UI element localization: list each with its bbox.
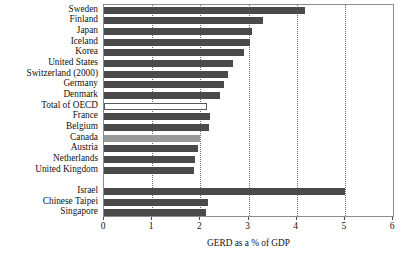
x-axis: 0123456 [103,217,394,237]
x-axis-tick-label: 0 [93,220,113,232]
category-label: Iceland [71,36,98,47]
bar [104,188,345,195]
x-axis-tick-label: 3 [238,220,258,232]
category-label: Canada [70,132,98,143]
category-label: Total of OECD [41,100,98,111]
bar [104,135,200,142]
category-label: Belgium [66,121,98,132]
x-axis-title: GERD as a % of GDP [103,237,394,249]
x-axis-tick-label: 1 [141,220,161,232]
bar [104,60,233,67]
bar [104,92,220,99]
bar [104,103,207,110]
category-label: Korea [75,46,98,57]
bar [104,17,263,24]
category-label: Chinese Taipei [43,196,98,207]
x-axis-tick-label: 6 [382,220,402,232]
category-label: Japan [77,25,98,36]
category-label: Finland [70,14,98,25]
category-label-column: SwedenFinlandJapanIcelandKoreaUnited Sta… [0,4,101,217]
category-label: Denmark [63,89,98,100]
bars-layer [104,5,393,216]
bar [104,7,305,14]
bar [104,81,224,88]
bar [104,167,194,174]
bar [104,28,252,35]
bar [104,209,206,216]
x-axis-tick-label: 4 [286,220,306,232]
category-label: Israel [77,185,98,196]
plot-area [103,4,394,217]
category-label: Netherlands [53,153,98,164]
bar [104,199,208,206]
category-label: Germany [63,78,98,89]
x-axis-tick-label: 5 [334,220,354,232]
x-axis-tick-label: 2 [189,220,209,232]
category-label: Switzerland (2000) [26,68,98,79]
bar [104,156,195,163]
bar [104,71,228,78]
gerd-bar-chart: SwedenFinlandJapanIcelandKoreaUnited Sta… [0,0,403,258]
category-label: United Kingdom [35,164,98,175]
category-label: France [73,110,98,121]
category-label: Austria [71,142,98,153]
bar [104,124,209,131]
bar [104,49,244,56]
category-label: United States [48,57,98,68]
category-label: Sweden [69,4,98,15]
bar [104,113,210,120]
category-label: Singapore [60,206,98,217]
bar [104,39,250,46]
bar [104,145,198,152]
